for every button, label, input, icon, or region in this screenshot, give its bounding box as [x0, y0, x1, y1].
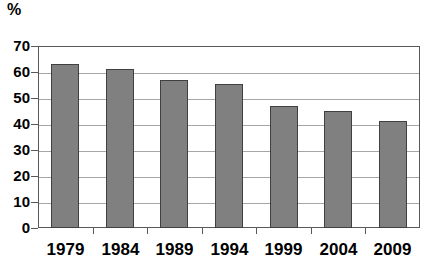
- bars-layer: [38, 46, 420, 228]
- y-axis-unit-label: %: [7, 2, 21, 18]
- y-axis-tick-label-text: 30: [0, 142, 30, 157]
- x-axis-tick-label: 1979: [38, 240, 93, 260]
- y-axis-tick-mark: [31, 176, 38, 177]
- bar: [270, 106, 298, 228]
- y-axis-tick-label: 30: [0, 142, 30, 157]
- y-axis-tick-mark: [31, 202, 38, 203]
- x-axis-tick-label: 1989: [147, 240, 202, 260]
- y-axis-tick-label-text: 50: [0, 90, 30, 105]
- x-axis-tick-label: 1994: [202, 240, 257, 260]
- y-axis-tick-label-text: 40: [0, 116, 30, 131]
- y-axis-tick-label-text: 60: [0, 64, 30, 79]
- y-axis-tick-label: 60: [0, 64, 30, 79]
- bar: [379, 121, 407, 228]
- y-axis-tick-label: 40: [0, 116, 30, 131]
- y-axis-tick-label: 10: [0, 194, 30, 209]
- y-axis-tick-mark: [31, 72, 38, 73]
- bar-chart: % 706050403020100 1979198419891994199920…: [0, 0, 431, 275]
- y-axis-tick-mark: [31, 98, 38, 99]
- y-axis-tick-labels: 706050403020100: [0, 46, 30, 228]
- x-axis-tick-mark: [256, 228, 257, 234]
- bar: [106, 69, 134, 228]
- y-axis-tick-label: 0: [0, 220, 30, 235]
- y-axis-tick-label: 50: [0, 90, 30, 105]
- y-axis-tick-label: 70: [0, 38, 30, 53]
- x-axis-tick-label: 1999: [256, 240, 311, 260]
- bar: [324, 111, 352, 228]
- bar: [51, 64, 79, 228]
- y-axis-tick-label-text: 70: [0, 38, 30, 53]
- y-axis-tick-label-text: 0: [0, 220, 30, 235]
- bar: [160, 80, 188, 228]
- y-axis-tick-label-text: 10: [0, 194, 30, 209]
- y-axis-tick-label: 20: [0, 168, 30, 183]
- y-axis-tick-mark: [31, 228, 38, 229]
- x-axis-tick-mark: [311, 228, 312, 234]
- x-axis-tick-mark: [147, 228, 148, 234]
- x-axis-tick-marks: [38, 228, 420, 234]
- x-axis-tick-label: 1984: [93, 240, 148, 260]
- y-axis-tick-label-text: 20: [0, 168, 30, 183]
- y-axis-tick-mark: [31, 46, 38, 47]
- bar: [215, 84, 243, 228]
- x-axis-tick-mark: [93, 228, 94, 234]
- y-axis-tick-mark: [31, 124, 38, 125]
- x-axis-tick-labels: 1979198419891994199920042009: [38, 240, 420, 266]
- x-axis-tick-mark: [365, 228, 366, 234]
- y-axis-tick-mark: [31, 150, 38, 151]
- x-axis-tick-label: 2004: [311, 240, 366, 260]
- x-axis-tick-label: 2009: [365, 240, 420, 260]
- x-axis-tick-mark: [202, 228, 203, 234]
